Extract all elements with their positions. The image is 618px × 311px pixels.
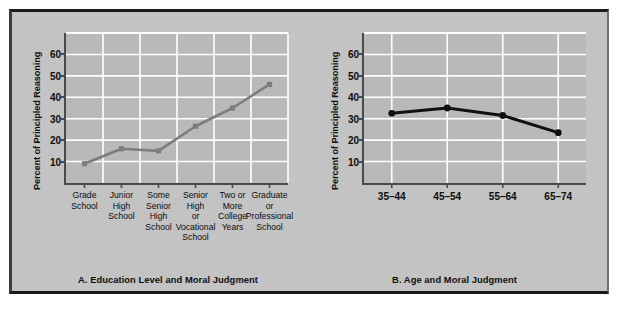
chart-a-ytick-30: 30: [50, 113, 61, 124]
chart-b-ytick-mark-10: [359, 161, 364, 163]
chart-a-ytick-mark-50: [61, 75, 66, 77]
xtick-label-line: Graduate: [243, 190, 297, 201]
chart-b-ytick-10: 10: [348, 156, 359, 167]
data-point-5: [267, 82, 272, 87]
xtick-label-line: or: [243, 201, 297, 212]
data-point-0: [82, 161, 87, 166]
chart-b-ytick-60: 60: [348, 49, 359, 60]
chart-a-ytick-mark-30: [61, 118, 66, 120]
chart-a-ytick-mark-10: [61, 161, 66, 163]
chart-a-ytick-mark-60: [61, 53, 66, 55]
data-point-1: [119, 146, 124, 151]
data-point-2: [499, 112, 506, 119]
chart-a-ytick-mark-40: [61, 96, 66, 98]
chart-b: Percent of Principled Reasoning 10203040…: [312, 12, 609, 291]
chart-b-xtick-3: 65–74: [544, 191, 572, 202]
chart-a-xtick-5: GraduateorProfessionalSchool: [243, 190, 297, 232]
chart-frame: Percent of Principled Reasoning 10203040…: [9, 9, 609, 294]
data-point-0: [388, 110, 395, 117]
data-point-1: [444, 105, 451, 112]
data-point-3: [555, 129, 562, 136]
chart-a-ytick-50: 50: [50, 70, 61, 81]
chart-b-xtick-0: 35–44: [378, 191, 406, 202]
chart-a-svg: [66, 33, 288, 183]
chart-b-ytick-40: 40: [348, 92, 359, 103]
chart-b-ytick-mark-30: [359, 118, 364, 120]
xtick-label-line: School: [243, 222, 297, 233]
chart-b-ytick-30: 30: [348, 113, 359, 124]
chart-a-plot-area: 102030405060GradeSchoolJuniorHighSchoolS…: [64, 33, 288, 185]
chart-b-y-axis-title: Percent of Principled Reasoning: [330, 52, 340, 190]
chart-b-data-line: [392, 108, 559, 133]
chart-a-ytick-40: 40: [50, 92, 61, 103]
chart-a-ytick-10: 10: [50, 156, 61, 167]
chart-b-ytick-50: 50: [348, 70, 359, 81]
chart-b-xtick-1: 45–54: [433, 191, 461, 202]
chart-b-caption: B. Age and Moral Judgment: [306, 274, 603, 285]
chart-b-plot-area: 10203040506035–4445–5455–6465–74: [362, 33, 586, 185]
chart-a: Percent of Principled Reasoning 10203040…: [12, 12, 312, 291]
chart-a-ytick-60: 60: [50, 49, 61, 60]
figure-panel: Percent of Principled Reasoning 10203040…: [0, 0, 618, 311]
chart-a-ytick-mark-20: [61, 139, 66, 141]
data-point-3: [193, 124, 198, 129]
xtick-label-line: Professional: [243, 211, 297, 222]
chart-b-ytick-20: 20: [348, 135, 359, 146]
chart-b-ytick-mark-50: [359, 75, 364, 77]
chart-b-ytick-mark-40: [359, 96, 364, 98]
chart-b-svg: [364, 33, 586, 183]
data-point-2: [156, 148, 161, 153]
data-point-4: [230, 105, 235, 110]
chart-b-ytick-mark-60: [359, 53, 364, 55]
chart-a-caption: A. Education Level and Moral Judgment: [18, 274, 318, 285]
xtick-label-line: School: [169, 232, 223, 243]
chart-b-xtick-2: 55–64: [489, 191, 517, 202]
chart-a-y-axis-title: Percent of Principled Reasoning: [32, 52, 42, 190]
chart-a-ytick-20: 20: [50, 135, 61, 146]
chart-b-ytick-mark-20: [359, 139, 364, 141]
